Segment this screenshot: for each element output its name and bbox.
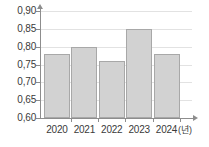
y-axis-tick: [36, 100, 40, 101]
y-axis-tick: [36, 82, 40, 83]
y-axis-tick: [36, 47, 40, 48]
y-axis-tick-label: 0,85: [2, 24, 36, 34]
x-axis-tick: [153, 119, 154, 122]
bar: [99, 61, 125, 118]
y-axis-tick-label: 0,60: [2, 113, 36, 123]
y-axis-tick: [36, 118, 40, 119]
gridline: [40, 29, 192, 30]
y-axis-tick-label: 0,65: [2, 95, 36, 105]
y-axis-tick: [36, 65, 40, 66]
x-axis-tick: [125, 119, 126, 122]
y-axis-tick-labels: 0,900,850,800,750,700,650,60: [0, 0, 36, 147]
y-axis-tick-label: 0,80: [2, 42, 36, 52]
x-axis-line: [40, 118, 195, 119]
x-axis-tick: [98, 119, 99, 122]
y-axis-tick-label: 0,75: [2, 60, 36, 70]
y-axis-tick: [36, 29, 40, 30]
x-axis-tick: [71, 119, 72, 122]
y-axis-line: [40, 8, 41, 118]
gridline: [40, 11, 192, 12]
x-axis-arrow-icon: [193, 115, 198, 121]
plot-area: [40, 11, 192, 118]
bar: [44, 54, 70, 118]
bar-chart: 0,900,850,800,750,700,650,60 20202021202…: [0, 0, 209, 147]
x-axis-unit-label: (년): [178, 125, 206, 135]
bar: [154, 54, 180, 118]
gridline: [40, 47, 192, 48]
y-axis-arrow-icon: [37, 4, 43, 9]
bar: [126, 29, 152, 118]
y-axis-tick-label: 0,70: [2, 77, 36, 87]
y-axis-tick-label: 0,90: [2, 6, 36, 16]
y-axis-tick: [36, 11, 40, 12]
x-axis-tick: [180, 119, 181, 122]
bar: [71, 47, 97, 118]
